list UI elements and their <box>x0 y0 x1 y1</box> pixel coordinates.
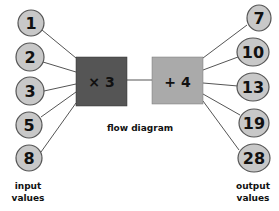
svg-text:28: 28 <box>243 149 265 168</box>
diagram-title: flow diagram <box>107 123 173 133</box>
output-label-line1: output <box>236 181 271 191</box>
input-node: 1 <box>18 10 44 36</box>
svg-text:2: 2 <box>24 48 35 67</box>
output-label-line2: values <box>237 193 270 203</box>
input-node: 2 <box>16 43 44 71</box>
flow-diagram: × 3 + 4 1 2 3 5 8 7 <box>0 0 279 211</box>
add-label: + 4 <box>164 74 191 90</box>
input-label-line2: values <box>12 193 45 203</box>
input-connectors <box>41 30 76 152</box>
output-node: 28 <box>238 144 270 172</box>
output-node: 7 <box>247 5 271 31</box>
svg-text:13: 13 <box>242 78 264 97</box>
multiply-box: × 3 <box>76 57 127 106</box>
svg-text:19: 19 <box>243 114 265 133</box>
svg-text:7: 7 <box>253 9 264 28</box>
svg-text:1: 1 <box>25 14 36 33</box>
svg-text:10: 10 <box>242 43 264 62</box>
add-box: + 4 <box>152 57 203 104</box>
svg-text:8: 8 <box>23 149 34 168</box>
output-node: 19 <box>239 109 269 137</box>
input-label-line1: input <box>15 181 42 191</box>
output-node: 13 <box>237 73 269 101</box>
multiply-label: × 3 <box>88 74 114 90</box>
input-node: 5 <box>16 112 42 138</box>
input-node: 3 <box>16 77 44 105</box>
input-node: 8 <box>16 145 42 171</box>
input-nodes: 1 2 3 5 8 <box>16 10 44 171</box>
output-nodes: 7 10 13 19 28 <box>237 5 271 172</box>
output-node: 10 <box>237 38 269 66</box>
svg-text:3: 3 <box>24 82 35 101</box>
svg-text:5: 5 <box>23 116 34 135</box>
